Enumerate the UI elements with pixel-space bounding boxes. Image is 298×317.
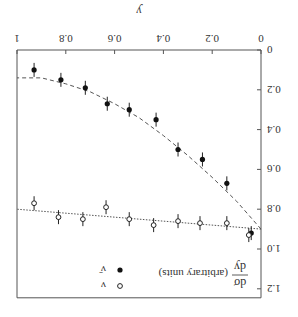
filled-marker [105,101,110,106]
x-tick-label: 0 [258,33,264,45]
data-point [104,200,109,214]
open-marker [56,215,61,220]
legend: νν̄ [99,264,123,292]
data-point [224,216,229,230]
data-point [127,103,132,117]
y-label-numerator: dσ [233,276,246,290]
y-label-units: (arbitrary units) [158,267,228,280]
fit-curves [17,78,261,229]
open-marker [198,221,203,226]
open-marker [80,217,85,222]
axes: 00.20.40.60.8100.20.40.60.81.01.2 [14,33,281,298]
x-tick-label: 0.2 [205,33,219,45]
x-tick-label: 1 [14,33,20,45]
dotted-fit-nu [17,209,261,229]
filled-marker [224,181,229,186]
filled-marker [175,147,180,152]
filled-marker [153,117,158,122]
data-points [31,63,253,242]
legend-label: ν [101,280,106,292]
filled-marker [31,67,36,72]
x-tick-label: 0.6 [107,33,121,45]
legend-label: ν̄ [99,264,106,276]
data-point [246,228,251,242]
data-point [83,81,88,95]
filled-marker [127,107,132,112]
plot-area: 00.20.40.60.8100.20.40.60.81.01.2 νν̄ y … [0,0,298,317]
x-tick-label: 0.4 [156,33,170,45]
data-point [58,73,63,87]
data-point [127,212,132,226]
open-marker [104,205,109,210]
data-point [176,214,181,228]
y-tick-label: 0.8 [267,203,281,215]
filled-marker [200,157,205,162]
x-axis-label: y [136,4,143,18]
dashed-fit-nubar [17,78,261,229]
data-point [31,63,36,77]
filled-marker [58,77,63,82]
legend-marker-filled [117,267,122,272]
filled-marker [83,85,88,90]
open-marker [176,219,181,224]
y-tick-label: 0 [267,44,273,56]
y-tick-label: 1.0 [267,243,281,255]
open-marker [32,201,37,206]
data-point [32,196,37,210]
y-label-denominator: dy [234,260,246,274]
chart: 00.20.40.60.8100.20.40.60.81.01.2 νν̄ y … [0,0,298,317]
data-point [200,152,205,166]
data-point [175,143,180,157]
x-tick-label: 0.8 [58,33,72,45]
data-point [153,113,158,127]
y-tick-label: 1.2 [267,283,281,295]
open-marker [224,221,229,226]
y-tick-label: 0.2 [267,84,281,96]
open-marker [127,217,132,222]
legend-marker-open [118,284,123,289]
y-tick-label: 0.6 [267,163,281,175]
y-axis-label: dσ dy (arbitrary units) [158,260,248,290]
open-marker [246,233,251,238]
data-point [224,176,229,190]
y-tick-label: 0.4 [267,124,281,136]
open-marker [151,223,156,228]
data-point [198,216,203,230]
